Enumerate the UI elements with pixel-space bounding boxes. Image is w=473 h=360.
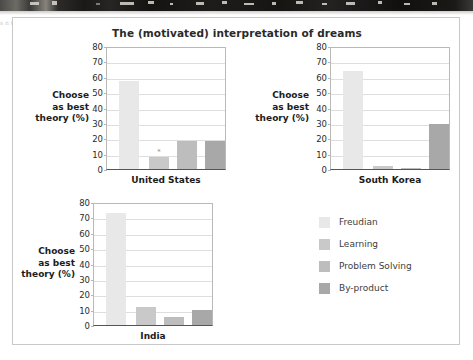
plot-area-wrap-south-korea: 80 70 60 50 40 30 20 10 0 South Korea	[330, 47, 450, 170]
legend-label-by-product: By-product	[339, 283, 388, 293]
y-tick-50: 50	[316, 88, 327, 98]
y-tick-10: 10	[316, 150, 327, 160]
y-tick-80: 80	[316, 42, 327, 52]
gridline	[331, 63, 449, 64]
y-tick-60: 60	[316, 73, 327, 83]
legend-item-learning[interactable]: Learning	[319, 238, 378, 250]
cropped-photo-strip	[0, 0, 473, 11]
y-tick-30: 30	[92, 119, 103, 129]
chart-panel-south-korea: Choose as best theory (%) 80 70 60 50 40…	[245, 42, 461, 192]
bar-freudian	[106, 213, 126, 325]
bar-learning	[373, 166, 393, 169]
y-tick-40: 40	[316, 104, 327, 114]
bar-problem-solving	[401, 168, 421, 169]
bar-by-product	[205, 141, 225, 169]
figure-frame: The (motivated) interpretation of dreams…	[12, 17, 460, 345]
chart-panel-india: Choose as best theory (%) 80 70 60 50 40…	[13, 198, 245, 348]
y-tick-70: 70	[92, 57, 103, 67]
y-axis-label-united-states: Choose as best theory (%)	[21, 90, 89, 125]
legend-item-by-product[interactable]: By-product	[319, 282, 388, 294]
y-tick-60: 60	[92, 73, 103, 83]
legend-label-learning: Learning	[339, 239, 378, 249]
y-tick-0: 0	[85, 321, 90, 331]
y-tick-20: 20	[92, 134, 103, 144]
y-tick-80: 80	[79, 198, 90, 208]
chart-panel-united-states: Choose as best theory (%) * 80 70 60	[13, 42, 245, 192]
bar-problem-solving	[177, 141, 197, 169]
y-tick-0: 0	[98, 165, 103, 175]
legend: Freudian Learning Problem Solving By-pro…	[313, 208, 453, 318]
legend-label-problem-solving: Problem Solving	[339, 261, 412, 271]
y-tick-30: 30	[79, 275, 90, 285]
y-tick-60: 60	[79, 229, 90, 239]
legend-label-freudian: Freudian	[339, 217, 378, 227]
y-tick-40: 40	[79, 260, 90, 270]
legend-swatch-by-product	[319, 283, 330, 294]
y-tick-80: 80	[92, 42, 103, 52]
bar-freudian	[343, 71, 363, 169]
figure-title: The (motivated) interpretation of dreams	[13, 27, 461, 39]
y-tick-30: 30	[316, 119, 327, 129]
x-axis-label-south-korea: South Korea	[330, 175, 450, 185]
x-axis-label-india: India	[93, 331, 213, 341]
y-tick-0: 0	[322, 165, 327, 175]
significance-star-learning: *	[157, 149, 161, 155]
y-tick-20: 20	[316, 134, 327, 144]
y-tick-70: 70	[79, 213, 90, 223]
y-tick-10: 10	[92, 150, 103, 160]
plot-area-south-korea	[330, 47, 450, 170]
plot-area-wrap-united-states: * 80 70 60 50 40 30 20 10 0 United State…	[106, 47, 226, 170]
y-tick-70: 70	[316, 57, 327, 67]
y-axis-label-india: Choose as best theory (%)	[13, 246, 75, 281]
bar-freudian	[119, 81, 139, 169]
gridline	[107, 63, 225, 64]
legend-swatch-freudian	[319, 217, 330, 228]
bar-learning	[136, 307, 156, 326]
plot-area-india	[93, 203, 213, 326]
legend-item-problem-solving[interactable]: Problem Solving	[319, 260, 412, 272]
y-tick-40: 40	[92, 104, 103, 114]
bar-problem-solving	[164, 317, 184, 325]
x-axis-label-united-states: United States	[106, 175, 226, 185]
bar-by-product	[192, 310, 212, 325]
plot-area-wrap-india: 80 70 60 50 40 30 20 10 0 India	[93, 203, 213, 326]
legend-swatch-learning	[319, 239, 330, 250]
y-axis-label-south-korea: Choose as best theory (%)	[245, 90, 309, 125]
bar-learning	[149, 157, 169, 169]
y-tick-10: 10	[79, 306, 90, 316]
y-tick-50: 50	[92, 88, 103, 98]
legend-item-freudian[interactable]: Freudian	[319, 216, 378, 228]
gridline	[107, 79, 225, 80]
y-tick-20: 20	[79, 290, 90, 300]
plot-area-united-states: *	[106, 47, 226, 170]
strip-fade	[0, 11, 473, 15]
bar-by-product	[429, 124, 449, 169]
y-tick-50: 50	[79, 244, 90, 254]
legend-swatch-problem-solving	[319, 261, 330, 272]
